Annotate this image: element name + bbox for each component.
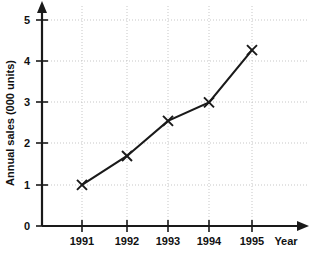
line-chart: 5 4 3 2 1 0 1991 1992 1993 1994 1995 Yea… bbox=[0, 0, 312, 253]
y-tick-label-3: 3 bbox=[24, 96, 30, 108]
vertical-gridlines bbox=[82, 6, 252, 226]
x-tick-label-1993: 1993 bbox=[156, 235, 180, 247]
x-tick-label-1992: 1992 bbox=[115, 235, 139, 247]
x-axis bbox=[42, 220, 309, 232]
y-tick-label-1: 1 bbox=[24, 179, 30, 191]
x-tick-labels: 1991 1992 1993 1994 1995 bbox=[70, 235, 264, 247]
data-point-1995 bbox=[247, 45, 257, 55]
x-axis-arrow-icon bbox=[297, 221, 309, 231]
data-markers bbox=[77, 45, 257, 190]
x-tick-label-1994: 1994 bbox=[197, 235, 222, 247]
data-line-annual-sales bbox=[82, 50, 252, 185]
y-axis-arrow-icon bbox=[37, 1, 47, 13]
y-tick-label-2: 2 bbox=[24, 137, 30, 149]
y-tick-labels: 5 4 3 2 1 0 bbox=[24, 14, 31, 232]
y-axis-title: Annual sales (000 units) bbox=[4, 60, 16, 186]
y-tick-label-4: 4 bbox=[24, 55, 31, 67]
y-axis bbox=[36, 1, 48, 226]
x-tick-label-1995: 1995 bbox=[240, 235, 264, 247]
chart-canvas: 5 4 3 2 1 0 1991 1992 1993 1994 1995 Yea… bbox=[0, 0, 312, 253]
x-tick-label-1991: 1991 bbox=[70, 235, 94, 247]
x-axis-title: Year bbox=[274, 235, 298, 247]
y-tick-label-0: 0 bbox=[24, 220, 30, 232]
y-tick-label-5: 5 bbox=[24, 14, 30, 26]
